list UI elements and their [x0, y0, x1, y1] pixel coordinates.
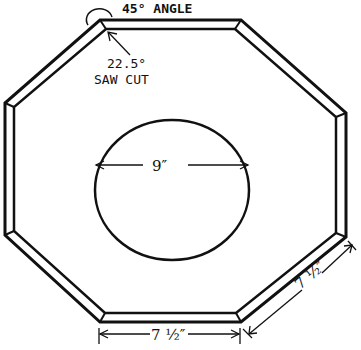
octagon-inner-edge	[14, 29, 336, 313]
center-circle	[95, 120, 249, 260]
octagon-diagram: 45° ANGLE 22.5° SAW CUT 9″ 7 ½″ 7 ½″	[0, 0, 361, 350]
bottom-side-label: 7 ½″	[151, 326, 186, 344]
saw-cut-label: SAW CUT	[94, 72, 149, 87]
angle-label: 45° ANGLE	[122, 1, 192, 16]
diameter-dimension	[96, 161, 248, 169]
diameter-label: 9″	[152, 157, 168, 175]
diagonal-side-label: 7 ½″	[291, 257, 329, 293]
saw-cut-arrow	[108, 32, 130, 55]
saw-cut-value: 22.5°	[107, 56, 146, 71]
